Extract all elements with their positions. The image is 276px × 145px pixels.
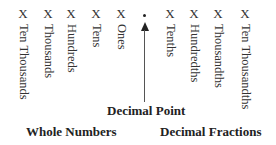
digit-placeholder-thousandths: X — [211, 7, 225, 21]
decimal-point-dot — [143, 14, 146, 17]
digit-placeholder-hundreds: X — [64, 7, 78, 21]
digit-placeholder-thousands: X — [41, 7, 55, 21]
place-label-tenths: Tenths — [164, 24, 177, 57]
arrow-line — [144, 30, 145, 102]
place-label-tens: Tens — [90, 24, 103, 47]
digit-placeholder-tenths: X — [163, 7, 177, 21]
digit-placeholder-ten-thousandths: X — [238, 7, 252, 21]
digit-placeholder-ten-thousands: X — [16, 7, 30, 21]
place-label-ten-thousandths: Ten Thousandths — [239, 24, 252, 109]
place-label-hundredths: Hundredths — [188, 24, 201, 82]
place-label-thousandths: Thousandths — [212, 24, 225, 88]
whole-numbers-label: Whole Numbers — [26, 125, 117, 139]
digit-placeholder-hundredths: X — [187, 7, 201, 21]
place-label-hundreds: Hundreds — [65, 24, 78, 73]
digit-placeholder-ones: X — [114, 7, 128, 21]
decimal-fractions-label: Decimal Fractions — [160, 125, 261, 139]
place-label-thousands: Thousands — [42, 24, 55, 78]
place-label-ones: Ones — [115, 24, 128, 50]
place-label-ten-thousands: Ten Thousands — [17, 24, 30, 100]
digit-placeholder-tens: X — [89, 7, 103, 21]
decimal-point-label: Decimal Point — [107, 104, 185, 118]
